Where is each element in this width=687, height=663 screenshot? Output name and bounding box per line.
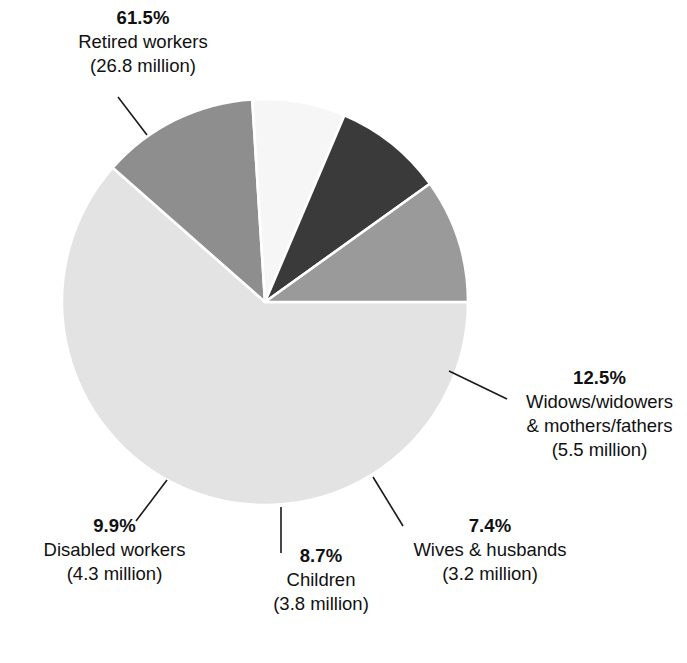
slice-label-disabled-workers: 9.9% Disabled workers (4.3 million) xyxy=(2,514,227,586)
leader-line-widows xyxy=(449,371,507,399)
slice-label-widows-widowers: 12.5% Widows/widowers & mothers/fathers … xyxy=(512,366,687,462)
slice-count-disabled-workers: (4.3 million) xyxy=(2,562,227,586)
pie-slice-group xyxy=(62,99,468,505)
slice-count-children: (3.8 million) xyxy=(236,592,406,616)
slice-count-wives-husbands: (3.2 million) xyxy=(396,562,584,586)
slice-name-wives-husbands: Wives & husbands xyxy=(396,538,584,562)
slice-name-retired-workers: Retired workers xyxy=(18,30,268,54)
slice-percent-wives-husbands: 7.4% xyxy=(396,514,584,538)
slice-percent-disabled-workers: 9.9% xyxy=(2,514,227,538)
slice-percent-retired-workers: 61.5% xyxy=(18,6,268,30)
slice-name-children: Children xyxy=(236,568,406,592)
slice-label-wives-husbands: 7.4% Wives & husbands (3.2 million) xyxy=(396,514,584,586)
slice-label-children: 8.7% Children (3.8 million) xyxy=(236,544,406,616)
slice-count-widows-widowers: (5.5 million) xyxy=(512,438,687,462)
slice-name-widows-widowers: Widows/widowers xyxy=(512,390,687,414)
slice-label-retired-workers: 61.5% Retired workers (26.8 million) xyxy=(18,6,268,78)
pie-chart-figure: 61.5% Retired workers (26.8 million) 12.… xyxy=(0,0,687,663)
slice-count-retired-workers: (26.8 million) xyxy=(18,54,268,78)
slice-name-disabled-workers: Disabled workers xyxy=(2,538,227,562)
slice-percent-children: 8.7% xyxy=(236,544,406,568)
leader-line-retired xyxy=(118,97,147,135)
slice-percent-widows-widowers: 12.5% xyxy=(512,366,687,390)
slice-name-widows-widowers-2: & mothers/fathers xyxy=(512,414,687,438)
